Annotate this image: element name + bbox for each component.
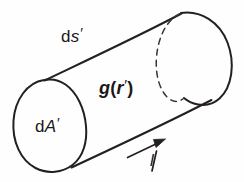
label-g-close-paren: ) bbox=[127, 78, 133, 98]
label-da-prime-mark: ′ bbox=[57, 115, 61, 131]
bottom-generator-line bbox=[72, 100, 212, 168]
label-g-of-r-prime: g(r′) bbox=[99, 77, 133, 97]
label-da-prefix: d bbox=[35, 117, 45, 136]
label-ds-prefix: d bbox=[61, 27, 71, 46]
far-cap-hidden-arc bbox=[156, 14, 183, 102]
label-da-prime: dA′ bbox=[35, 116, 60, 135]
figure-root: ds′ dA′ g(r′) l bbox=[0, 0, 244, 182]
top-generator-line bbox=[45, 14, 182, 81]
far-cap-visible-arc bbox=[181, 13, 232, 105]
label-g-argument: r bbox=[116, 78, 123, 98]
label-ds-prime-mark: ′ bbox=[80, 25, 84, 41]
label-g-symbol: g bbox=[99, 78, 110, 98]
label-l-direction: l bbox=[150, 152, 154, 169]
label-ds-symbol: s bbox=[71, 27, 80, 46]
label-ds-prime: ds′ bbox=[61, 26, 83, 45]
label-da-symbol: A bbox=[45, 117, 57, 136]
label-l-symbol: l bbox=[150, 151, 154, 170]
direction-arrow-head bbox=[154, 139, 166, 148]
